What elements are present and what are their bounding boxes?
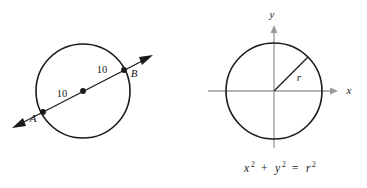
secant-arrowhead-left: [12, 118, 26, 128]
point-b-dot: [121, 67, 127, 73]
y-axis-arrowhead: [271, 25, 278, 33]
point-a-label: A: [29, 112, 37, 124]
x-axis-label: x: [346, 84, 352, 96]
equation-plus-sign: +: [261, 162, 268, 174]
secant-arrowhead-right: [139, 55, 153, 65]
y-axis-label: y: [269, 8, 275, 20]
equation-r-base: r: [306, 162, 311, 174]
geometry-figure: A B 10 10 y x r x 2 + y 2: [0, 0, 367, 188]
x-axis-arrowhead: [330, 88, 338, 95]
radius-label: r: [297, 71, 302, 83]
equation-equals-sign: =: [292, 162, 299, 174]
point-b-label: B: [131, 67, 138, 79]
figure-root: A B 10 10 y x r x 2 + y 2: [0, 0, 367, 188]
equation-x-exponent: 2: [251, 160, 255, 169]
segment-left-length-label: 10: [57, 88, 68, 99]
circle-equation: x 2 + y 2 = r 2: [243, 160, 316, 175]
equation-y-base: y: [274, 162, 281, 175]
radius-line: [274, 57, 308, 91]
right-diagram-group: y x r x 2 + y 2 = r 2: [208, 8, 352, 175]
center-dot: [80, 88, 86, 94]
equation-x-base: x: [243, 162, 250, 174]
segment-right-length-label: 10: [97, 64, 108, 75]
point-a-dot: [40, 109, 46, 115]
equation-y-exponent: 2: [282, 160, 286, 169]
equation-r-exponent: 2: [312, 160, 316, 169]
left-diagram-group: A B 10 10: [12, 44, 153, 138]
